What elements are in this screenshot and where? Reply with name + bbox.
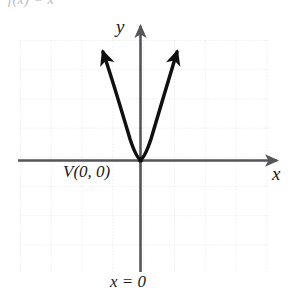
parabola-figure: f(x) = x² y x V(0, 0) x = 0: [0, 0, 293, 302]
graph-canvas: [0, 0, 293, 302]
x-axis-label: x: [272, 163, 280, 185]
vertex-label: V(0, 0): [63, 162, 110, 182]
axis-of-symmetry-label: x = 0: [110, 272, 146, 292]
vertex-point: [138, 157, 143, 162]
y-axis-label: y: [116, 16, 124, 38]
